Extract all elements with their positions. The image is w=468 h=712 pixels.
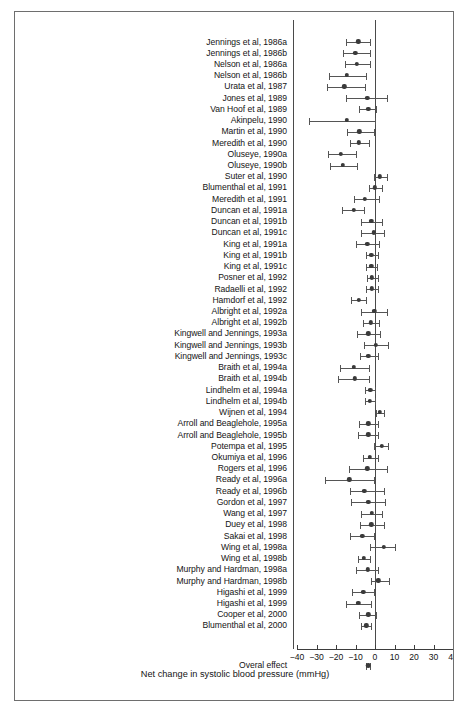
forest-row xyxy=(293,498,454,507)
forest-row xyxy=(293,296,454,305)
point-estimate-marker xyxy=(365,96,369,100)
forest-row xyxy=(293,431,454,440)
point-estimate-marker xyxy=(372,230,376,234)
study-label: Suter et al, 1990 xyxy=(15,172,293,181)
study-label: Hamdorf et al, 1992 xyxy=(15,296,293,305)
study-label: Wang et al, 1997 xyxy=(15,509,293,518)
confidence-interval-cap xyxy=(357,163,358,170)
x-axis-line xyxy=(297,649,453,650)
forest-row xyxy=(293,319,454,328)
study-label: Duey et al, 1998 xyxy=(15,520,293,529)
study-label: Arroll and Beaglehole, 1995a xyxy=(15,419,293,428)
confidence-interval-line xyxy=(309,121,376,122)
confidence-interval-cap xyxy=(352,589,353,596)
confidence-interval-cap xyxy=(329,73,330,80)
point-estimate-marker xyxy=(366,331,370,335)
confidence-interval-cap xyxy=(361,230,362,237)
forest-row xyxy=(293,375,454,384)
confidence-interval-cap xyxy=(370,544,371,551)
confidence-interval-line xyxy=(327,87,365,88)
confidence-interval-cap xyxy=(364,207,365,214)
forest-row xyxy=(293,386,454,395)
point-estimate-marker xyxy=(366,567,370,571)
study-label: Radaelli et al, 1992 xyxy=(15,285,293,294)
point-estimate-marker xyxy=(370,275,374,279)
confidence-interval-cap xyxy=(349,466,350,473)
point-estimate-marker xyxy=(366,421,370,425)
confidence-interval-cap xyxy=(366,264,367,271)
point-estimate-marker xyxy=(360,534,364,538)
confidence-interval-cap xyxy=(378,286,379,293)
confidence-interval-cap xyxy=(363,455,364,462)
forest-row xyxy=(293,487,454,496)
forest-row xyxy=(293,600,454,609)
study-label: Meredith et al, 1990 xyxy=(15,139,293,148)
x-axis-tick xyxy=(336,645,337,649)
confidence-interval-cap xyxy=(370,50,371,57)
forest-row xyxy=(293,150,454,159)
study-label: Duncan et al, 1991c xyxy=(15,228,293,237)
forest-row xyxy=(293,240,454,249)
point-estimate-marker xyxy=(356,601,360,605)
confidence-interval-cap xyxy=(379,320,380,327)
confidence-interval-cap xyxy=(359,106,360,113)
confidence-interval-cap xyxy=(379,196,380,203)
point-estimate-marker xyxy=(361,556,365,560)
study-label: Urata et al, 1987 xyxy=(15,82,293,91)
confidence-interval-cap xyxy=(377,264,378,271)
confidence-interval-cap xyxy=(359,612,360,619)
confidence-interval-cap xyxy=(327,84,328,91)
point-estimate-marker xyxy=(366,500,370,504)
study-label: Gordon et al, 1997 xyxy=(15,498,293,507)
confidence-interval-cap xyxy=(395,544,396,551)
confidence-interval-cap xyxy=(379,241,380,248)
point-estimate-marker xyxy=(370,286,374,290)
study-label: Blumenthal et al, 2000 xyxy=(15,621,293,630)
x-axis-tick xyxy=(434,645,435,649)
forest-row xyxy=(293,218,454,227)
confidence-interval-cap xyxy=(361,309,362,316)
confidence-interval-cap xyxy=(350,488,351,495)
confidence-interval-cap xyxy=(388,443,389,450)
confidence-interval-cap xyxy=(378,421,379,428)
confidence-interval-line xyxy=(371,581,389,582)
point-estimate-marker xyxy=(354,62,358,66)
study-label: Murphy and Hardman, 1998a xyxy=(15,565,293,574)
study-label: Albright et al, 1992a xyxy=(15,307,293,316)
confidence-interval-cap xyxy=(371,578,372,585)
confidence-interval-cap xyxy=(374,477,375,484)
study-label: King et al, 1991c xyxy=(15,262,293,271)
study-label: Jones et al, 1989 xyxy=(15,94,293,103)
confidence-interval-cap xyxy=(369,376,370,383)
confidence-interval-cap xyxy=(374,533,375,540)
confidence-interval-cap xyxy=(369,140,370,147)
study-label: Kingwell and Jennings, 1993a xyxy=(15,329,293,338)
forest-row xyxy=(293,60,454,69)
forest-row xyxy=(293,543,454,552)
forest-row xyxy=(293,330,454,339)
study-label: Wing et al, 1998b xyxy=(15,554,293,563)
confidence-interval-cap xyxy=(371,601,372,608)
point-estimate-marker xyxy=(365,242,369,246)
confidence-interval-cap xyxy=(374,129,375,136)
study-label: Oluseye, 1990a xyxy=(15,150,293,159)
confidence-interval-cap xyxy=(380,331,381,338)
study-label: King et al, 1991b xyxy=(15,251,293,260)
forest-row xyxy=(293,397,454,406)
confidence-interval-cap xyxy=(382,185,383,192)
study-label: Lindhelm et al, 1994a xyxy=(15,386,293,395)
point-estimate-marker xyxy=(353,376,357,380)
confidence-interval-cap xyxy=(370,556,371,563)
confidence-interval-cap xyxy=(360,522,361,529)
confidence-interval-cap xyxy=(346,601,347,608)
forest-row xyxy=(293,555,454,564)
point-estimate-marker xyxy=(377,174,381,178)
point-estimate-marker xyxy=(341,163,345,167)
study-label: Akinpelu, 1990 xyxy=(15,116,293,125)
confidence-interval-cap xyxy=(366,286,367,293)
study-label: Sakai et al, 1998 xyxy=(15,532,293,541)
confidence-interval-cap xyxy=(309,118,310,125)
confidence-interval-cap xyxy=(346,39,347,46)
forest-row xyxy=(293,251,454,260)
confidence-interval-cap xyxy=(345,61,346,68)
